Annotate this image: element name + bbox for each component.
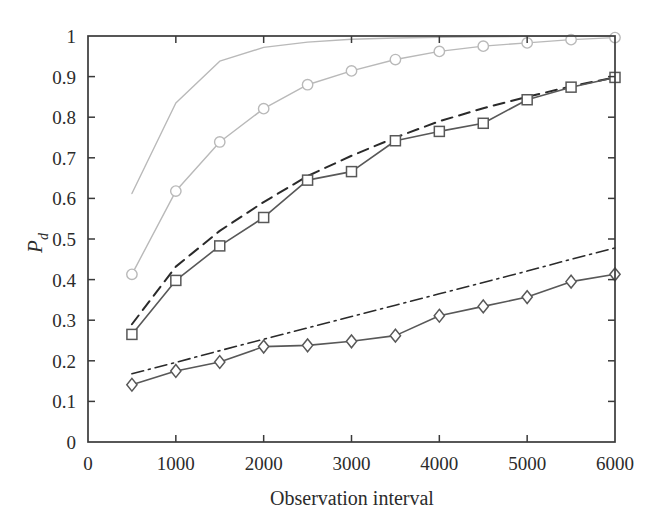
x-tick-label: 5000	[508, 453, 546, 474]
y-tick-label: 0.6	[52, 188, 76, 209]
y-tick-label: 0.3	[52, 310, 76, 331]
marker-square	[171, 275, 181, 285]
marker-circle	[302, 80, 312, 90]
y-axis-title-base: P	[23, 240, 47, 254]
x-tick-label: 0	[83, 453, 93, 474]
marker-circle	[478, 41, 488, 51]
marker-square	[215, 241, 225, 251]
chart-root: 010002000300040005000600000.10.20.30.40.…	[0, 0, 666, 526]
y-tick-label: 0.2	[52, 351, 76, 372]
marker-circle	[434, 46, 444, 56]
detection-probability-chart: 010002000300040005000600000.10.20.30.40.…	[0, 0, 666, 526]
x-tick-label: 3000	[333, 453, 371, 474]
y-axis-title-subscript: d	[36, 232, 51, 240]
y-axis-title: Pd	[23, 232, 51, 254]
x-tick-label: 4000	[420, 453, 458, 474]
marker-circle	[171, 186, 181, 196]
y-tick-label: 0.1	[52, 391, 76, 412]
x-tick-label: 6000	[596, 453, 634, 474]
marker-circle	[215, 137, 225, 147]
marker-circle	[346, 66, 356, 76]
y-tick-label: 0.7	[52, 148, 76, 169]
y-tick-label: 0	[67, 432, 77, 453]
marker-square	[566, 82, 576, 92]
marker-square	[259, 212, 269, 222]
x-tick-label: 2000	[245, 453, 283, 474]
marker-circle	[258, 103, 268, 113]
y-tick-label: 1	[67, 26, 77, 47]
y-tick-label: 0.8	[52, 107, 76, 128]
x-axis-title: Observation interval	[270, 487, 434, 509]
marker-square	[522, 95, 532, 105]
marker-square	[390, 136, 400, 146]
y-tick-label: 0.9	[52, 67, 76, 88]
marker-square	[303, 175, 313, 185]
marker-circle	[127, 269, 137, 279]
y-tick-label: 0.5	[52, 229, 76, 250]
marker-square	[434, 126, 444, 136]
marker-circle	[390, 54, 400, 64]
y-tick-label: 0.4	[52, 270, 76, 291]
marker-square	[127, 329, 137, 339]
marker-square	[347, 167, 357, 177]
marker-square	[478, 118, 488, 128]
x-tick-label: 1000	[157, 453, 195, 474]
